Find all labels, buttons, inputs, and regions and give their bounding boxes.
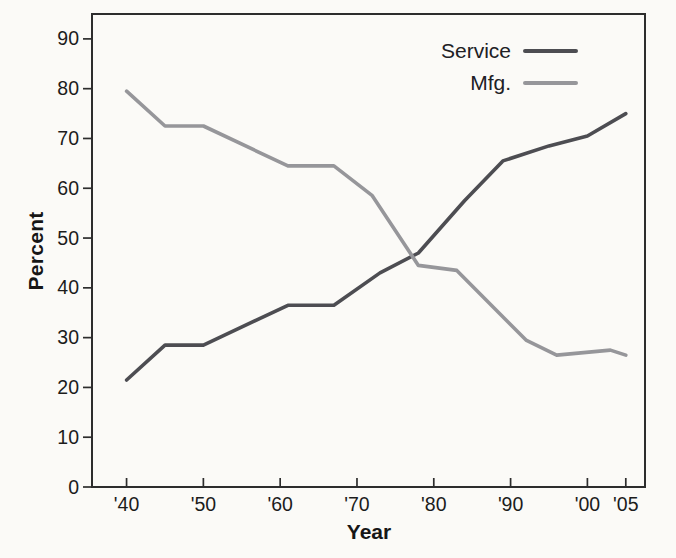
x-axis-tick-label: '80 xyxy=(421,493,447,515)
legend-item-service: Service xyxy=(441,36,578,65)
series-line-mfg xyxy=(127,91,626,355)
x-axis-tick-label: '60 xyxy=(267,493,293,515)
legend-label-mfg: Mfg. xyxy=(470,72,511,93)
x-axis-tick-label: '05 xyxy=(613,493,639,515)
legend: Service Mfg. xyxy=(0,36,578,97)
mfg-line-swatch xyxy=(523,81,578,85)
y-axis-tick-label: 20 xyxy=(57,376,79,398)
legend-item-mfg: Mfg. xyxy=(470,68,578,97)
x-axis-title: Year xyxy=(347,520,391,544)
y-axis-tick-label: 30 xyxy=(57,326,79,348)
y-axis-tick-label: 60 xyxy=(57,177,79,199)
x-axis-tick-label: '90 xyxy=(498,493,524,515)
legend-label-service: Service xyxy=(441,40,511,61)
y-axis-tick-label: 40 xyxy=(57,276,79,298)
x-axis-tick-label: '50 xyxy=(191,493,217,515)
x-axis-tick-label: '00 xyxy=(575,493,601,515)
y-axis-tick-label: 70 xyxy=(57,127,79,149)
y-axis-title: Percent xyxy=(24,211,48,290)
chart-figure: 0102030405060708090'40'50'60'70'80'90'00… xyxy=(0,0,676,558)
x-axis-tick-label: '70 xyxy=(344,493,370,515)
y-axis-tick-label: 10 xyxy=(57,426,79,448)
x-axis-tick-label: '40 xyxy=(114,493,140,515)
service-line-swatch xyxy=(523,49,578,53)
y-axis-tick-label: 50 xyxy=(57,227,79,249)
series-line-service xyxy=(127,114,626,380)
y-axis-tick-label: 0 xyxy=(68,476,79,498)
